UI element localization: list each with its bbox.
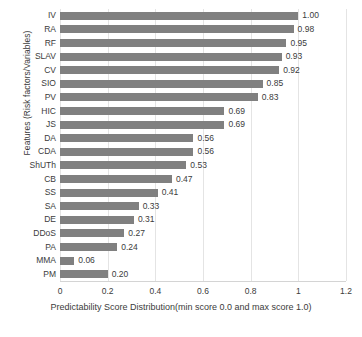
- bar: [60, 93, 258, 101]
- bar: [60, 148, 193, 156]
- bar: [60, 80, 263, 88]
- bar-value-label: 0.27: [128, 229, 145, 237]
- y-axis-tick-label: ShUTh: [14, 161, 56, 170]
- bar-value-label: 0.83: [262, 93, 279, 101]
- bar-value-label: 0.93: [286, 52, 303, 60]
- x-axis-title: Predictability Score Distribution(min sc…: [0, 302, 362, 312]
- bar: [60, 53, 282, 61]
- gridline: [251, 9, 252, 281]
- bar: [60, 229, 124, 237]
- bar: [60, 12, 298, 20]
- y-axis-tick-label: IV: [14, 11, 56, 20]
- y-axis-tick-label: SS: [14, 188, 56, 197]
- bar-value-label: 0.56: [197, 147, 214, 155]
- y-axis-tick-labels: IVRARFSLAVCVSIOPVHICJSDACDAShUThCBSSSADE…: [14, 9, 56, 281]
- bar-value-label: 0.24: [121, 243, 138, 251]
- bar-value-label: 0.85: [267, 79, 284, 87]
- bar-value-label: 0.47: [176, 175, 193, 183]
- bar: [60, 107, 224, 115]
- bar-value-label: 0.69: [228, 120, 245, 128]
- bar-value-label: 0.31: [138, 215, 155, 223]
- y-axis-tick-label: JS: [14, 120, 56, 129]
- bar: [60, 39, 286, 47]
- bar-value-label: 0.41: [162, 188, 179, 196]
- x-axis-tick-label: 1.2: [340, 286, 352, 296]
- bar-value-label: 0.92: [283, 66, 300, 74]
- bar-chart: Features (Risk factors/Variables) IVRARF…: [0, 0, 362, 337]
- y-axis-tick-label: PM: [14, 270, 56, 279]
- x-axis-tick-labels: 00.20.40.60.811.2: [60, 286, 346, 298]
- bar: [60, 66, 279, 74]
- gridline: [298, 9, 299, 281]
- plot-area: 1.000.980.950.930.920.850.830.690.690.56…: [60, 9, 346, 281]
- y-axis-tick-label: DDoS: [14, 229, 56, 238]
- y-axis-tick-label: RF: [14, 39, 56, 48]
- x-axis-tick-label: 0.6: [197, 286, 209, 296]
- bar-value-label: 0.33: [143, 202, 160, 210]
- y-axis-tick-label: DA: [14, 134, 56, 143]
- bar: [60, 243, 117, 251]
- bar: [60, 257, 74, 265]
- x-axis-tick-label: 0.4: [149, 286, 161, 296]
- bar-value-label: 0.53: [190, 161, 207, 169]
- y-axis-tick-label: CB: [14, 175, 56, 184]
- y-axis-tick-label: PA: [14, 243, 56, 252]
- bar: [60, 134, 193, 142]
- y-axis-tick-label: SA: [14, 202, 56, 211]
- y-axis-tick-label: SLAV: [14, 52, 56, 61]
- bar: [60, 216, 134, 224]
- bar-value-label: 0.69: [228, 107, 245, 115]
- gridline: [155, 9, 156, 281]
- bar: [60, 25, 294, 33]
- gridline: [108, 9, 109, 281]
- x-axis-line: [60, 281, 346, 282]
- y-axis-tick-label: RA: [14, 25, 56, 34]
- bar: [60, 175, 172, 183]
- bar-value-label: 0.20: [112, 270, 129, 278]
- y-axis-tick-label: MMA: [14, 256, 56, 265]
- bar-value-label: 1.00: [302, 11, 319, 19]
- x-axis-tick-label: 0.2: [102, 286, 114, 296]
- bar-value-label: 0.98: [298, 25, 315, 33]
- y-axis-tick-label: PV: [14, 93, 56, 102]
- x-axis-tick-label: 0: [58, 286, 63, 296]
- gridline: [203, 9, 204, 281]
- bar-value-label: 0.95: [290, 39, 307, 47]
- bar: [60, 161, 186, 169]
- bar: [60, 189, 158, 197]
- bar: [60, 202, 139, 210]
- y-axis-tick-label: DE: [14, 215, 56, 224]
- x-axis-tick-label: 0.8: [245, 286, 257, 296]
- y-axis-tick-label: SIO: [14, 79, 56, 88]
- x-axis-tick-label: 1: [296, 286, 301, 296]
- bar: [60, 121, 224, 129]
- y-axis-tick-label: CDA: [14, 147, 56, 156]
- bar-value-label: 0.56: [197, 134, 214, 142]
- y-axis-tick-label: HIC: [14, 107, 56, 116]
- bar-value-label: 0.06: [78, 256, 95, 264]
- gridline: [346, 9, 347, 281]
- gridline: [60, 9, 61, 281]
- y-axis-tick-label: CV: [14, 66, 56, 75]
- bar: [60, 270, 108, 278]
